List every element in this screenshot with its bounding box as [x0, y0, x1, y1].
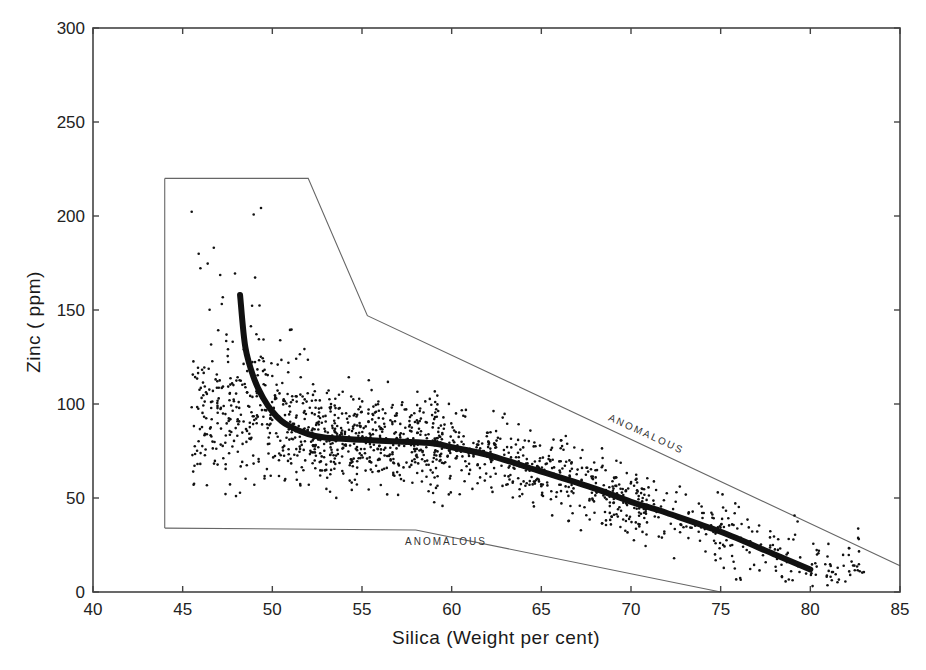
data-point: [850, 560, 853, 563]
data-point: [604, 511, 607, 514]
data-point: [435, 458, 438, 461]
data-point: [216, 387, 219, 390]
data-point: [289, 457, 292, 460]
data-point: [300, 441, 303, 444]
data-point: [672, 508, 675, 511]
x-tick-label: 60: [442, 600, 461, 619]
data-point: [206, 484, 209, 487]
data-point: [437, 410, 440, 413]
data-point: [531, 483, 534, 486]
data-point: [377, 470, 380, 473]
data-point: [533, 505, 536, 508]
data-point: [506, 483, 509, 486]
data-point: [287, 371, 290, 374]
data-point: [257, 460, 260, 463]
data-point: [296, 479, 299, 482]
data-point: [618, 506, 621, 509]
data-point: [278, 392, 281, 395]
data-point: [512, 496, 515, 499]
data-point: [333, 404, 336, 407]
data-point: [856, 565, 859, 568]
data-point: [322, 415, 325, 418]
data-point: [848, 547, 851, 550]
data-point: [595, 482, 598, 485]
data-point: [546, 484, 549, 487]
data-point: [521, 493, 524, 496]
data-point: [255, 395, 258, 398]
data-point: [375, 464, 378, 467]
x-tick-label: 40: [84, 600, 103, 619]
data-point: [564, 464, 567, 467]
data-point: [369, 446, 372, 449]
data-point: [646, 521, 649, 524]
data-point: [697, 531, 700, 534]
data-point: [758, 569, 761, 572]
data-point: [216, 402, 219, 405]
data-point: [389, 453, 392, 456]
data-point: [661, 536, 664, 539]
data-point: [472, 442, 475, 445]
data-point: [271, 375, 274, 378]
data-point: [244, 386, 247, 389]
data-point: [441, 438, 444, 441]
data-point: [780, 564, 783, 567]
data-point: [358, 425, 361, 428]
data-point: [857, 537, 860, 540]
data-point: [341, 447, 344, 450]
data-point: [714, 542, 717, 545]
data-point: [522, 454, 525, 457]
x-tick-label: 55: [353, 600, 372, 619]
data-point: [229, 392, 232, 395]
data-point: [248, 406, 251, 409]
data-point: [640, 512, 643, 515]
data-point: [455, 412, 458, 415]
data-point: [221, 387, 224, 390]
data-point: [400, 478, 403, 481]
data-point: [594, 494, 597, 497]
data-point: [305, 413, 308, 416]
data-point: [507, 452, 510, 455]
y-tick-label: 250: [57, 113, 85, 132]
data-point: [416, 419, 419, 422]
data-point: [653, 480, 656, 483]
data-point: [719, 542, 722, 545]
data-point: [327, 431, 330, 434]
data-point: [499, 438, 502, 441]
data-point: [331, 425, 334, 428]
data-point: [605, 519, 608, 522]
data-point: [193, 425, 196, 428]
data-point: [370, 389, 373, 392]
y-tick-label: 100: [57, 395, 85, 414]
data-point: [416, 472, 419, 475]
data-point: [231, 445, 234, 448]
data-point: [410, 464, 413, 467]
data-point: [745, 549, 748, 552]
data-point: [792, 538, 795, 541]
data-point: [313, 428, 316, 431]
data-point: [644, 511, 647, 514]
data-point: [619, 488, 622, 491]
data-point: [494, 473, 497, 476]
data-point: [312, 394, 315, 397]
data-point: [214, 378, 217, 381]
data-point: [336, 425, 339, 428]
data-point: [633, 539, 636, 542]
data-point: [364, 425, 367, 428]
data-point: [236, 376, 239, 379]
data-point: [378, 445, 381, 448]
data-point: [252, 423, 255, 426]
data-point: [222, 405, 225, 408]
data-point: [317, 446, 320, 449]
data-point: [626, 472, 629, 475]
data-point: [341, 470, 344, 473]
data-point: [286, 393, 289, 396]
data-point: [331, 427, 334, 430]
data-point: [353, 414, 356, 417]
data-point: [528, 484, 531, 487]
data-point: [225, 340, 228, 343]
data-point: [226, 355, 229, 358]
data-point: [338, 393, 341, 396]
data-point: [395, 447, 398, 450]
data-point: [394, 431, 397, 434]
data-point: [290, 401, 293, 404]
